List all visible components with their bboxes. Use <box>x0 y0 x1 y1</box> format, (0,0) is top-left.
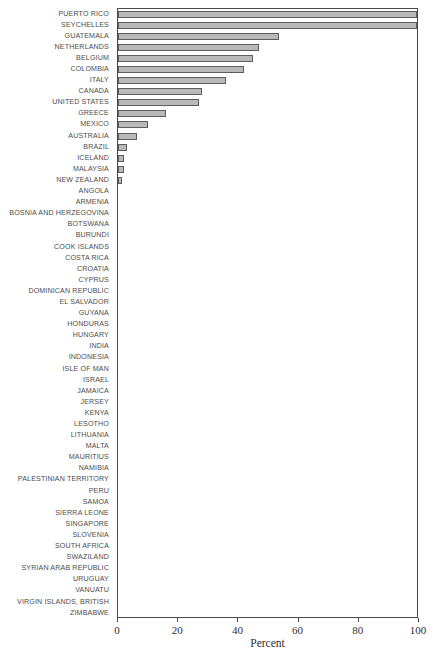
bar-row <box>118 307 417 318</box>
category-label: ITALY <box>0 75 113 86</box>
bar-row <box>118 318 417 329</box>
x-tick-label: 40 <box>232 624 243 636</box>
bar <box>118 144 127 151</box>
bar-row <box>118 351 417 362</box>
x-tick <box>358 618 359 622</box>
bar-row <box>118 164 417 175</box>
category-label: PERU <box>0 485 113 496</box>
category-label: LESOTHO <box>0 418 113 429</box>
bar <box>118 77 226 84</box>
bar-row <box>118 606 417 617</box>
category-label: SLOVENIA <box>0 529 113 540</box>
bar-row <box>118 285 417 296</box>
bar-row <box>118 506 417 517</box>
bar <box>118 99 199 106</box>
category-label: VIRGIN ISLANDS, BRITISH <box>0 596 113 607</box>
bar-row <box>118 407 417 418</box>
x-tick-label: 80 <box>352 624 363 636</box>
bar-row <box>118 572 417 583</box>
bar-row <box>118 241 417 252</box>
bar-row <box>118 517 417 528</box>
bar-row <box>118 208 417 219</box>
bar-row <box>118 440 417 451</box>
bar <box>118 121 148 128</box>
category-label: URUGUAY <box>0 574 113 585</box>
category-label: JERSEY <box>0 396 113 407</box>
category-axis-labels: PUERTO RICOSEYCHELLESGUATEMALANETHERLAND… <box>0 8 113 618</box>
category-label: BURUNDI <box>0 230 113 241</box>
category-label: EL SALVADOR <box>0 296 113 307</box>
category-label: HONDURAS <box>0 319 113 330</box>
category-label: SYRIAN ARAB REPUBLIC <box>0 563 113 574</box>
bar <box>118 11 417 18</box>
bar-row <box>118 528 417 539</box>
category-label: INDIA <box>0 341 113 352</box>
bar-row <box>118 31 417 42</box>
x-tick-label: 0 <box>114 624 120 636</box>
bar-row <box>118 396 417 407</box>
bar-row <box>118 385 417 396</box>
bar-row <box>118 142 417 153</box>
bar-chart: PUERTO RICOSEYCHELLESGUATEMALANETHERLAND… <box>0 0 438 656</box>
bar-row <box>118 175 417 186</box>
category-label: AUSTRALIA <box>0 130 113 141</box>
category-label: SAMOA <box>0 496 113 507</box>
category-label: VANUATU <box>0 585 113 596</box>
bar-row <box>118 42 417 53</box>
x-tick <box>418 618 419 622</box>
category-label: NAMIBIA <box>0 463 113 474</box>
category-label: GREECE <box>0 108 113 119</box>
category-label: SINGAPORE <box>0 518 113 529</box>
bar-row <box>118 20 417 31</box>
bar-row <box>118 561 417 572</box>
plot-area <box>117 8 418 618</box>
category-label: ICELAND <box>0 152 113 163</box>
bar <box>118 133 137 140</box>
bar-row <box>118 263 417 274</box>
category-label: MALTA <box>0 441 113 452</box>
bar-row <box>118 75 417 86</box>
bar-row <box>118 473 417 484</box>
bar-row <box>118 539 417 550</box>
bar-row <box>118 329 417 340</box>
bar-row <box>118 53 417 64</box>
bar-row <box>118 64 417 75</box>
x-tick <box>298 618 299 622</box>
bar <box>118 44 259 51</box>
bar-row <box>118 451 417 462</box>
bar-row <box>118 97 417 108</box>
category-label: LITHUANIA <box>0 430 113 441</box>
bar <box>118 177 122 184</box>
bar-row <box>118 429 417 440</box>
bar <box>118 66 244 73</box>
bar <box>118 166 124 173</box>
category-label: ARMENIA <box>0 197 113 208</box>
bar-row <box>118 119 417 130</box>
bar-row <box>118 462 417 473</box>
bar-row <box>118 197 417 208</box>
bar <box>118 110 166 117</box>
category-label: PALESTINIAN TERRITORY <box>0 474 113 485</box>
category-label: BELGIUM <box>0 52 113 63</box>
bar-row <box>118 363 417 374</box>
category-label: JAMAICA <box>0 385 113 396</box>
category-label: BOTSWANA <box>0 219 113 230</box>
bar-row <box>118 230 417 241</box>
category-label: COOK ISLANDS <box>0 241 113 252</box>
bar-row <box>118 86 417 97</box>
bar-row <box>118 296 417 307</box>
category-label: NETHERLANDS <box>0 41 113 52</box>
category-label: NEW ZEALAND <box>0 174 113 185</box>
category-label: COSTA RICA <box>0 252 113 263</box>
category-label: MEXICO <box>0 119 113 130</box>
bar <box>118 155 124 162</box>
category-label: UNITED STATES <box>0 97 113 108</box>
bar-row <box>118 219 417 230</box>
x-tick <box>177 618 178 622</box>
x-axis-title: Percent <box>117 637 418 649</box>
category-label: CROATIA <box>0 263 113 274</box>
bar-row <box>118 374 417 385</box>
category-label: ZIMBABWE <box>0 607 113 618</box>
bar-row <box>118 108 417 119</box>
category-label: GUYANA <box>0 308 113 319</box>
